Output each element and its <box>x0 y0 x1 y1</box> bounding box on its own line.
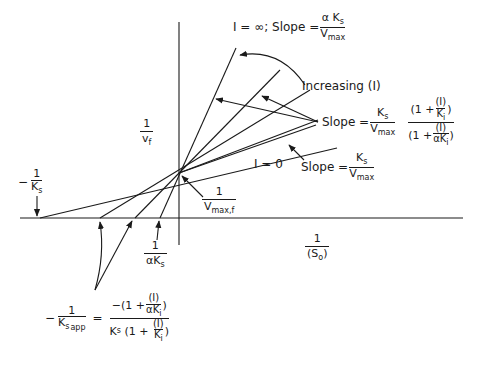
zero-slope-annotation: Slope = Ks Vmax <box>301 152 375 182</box>
ks-app-equation: − 1 Ksapp = −(1 + (I)αKi ) Ks (1 + (I)Ki… <box>45 293 170 344</box>
alpha-ks-label: 1 αKs <box>144 240 167 269</box>
intersection-label: 1 Vmax,f <box>202 186 236 215</box>
x-axis-label: 1 (So) <box>305 233 329 262</box>
zero-label: I = 0 <box>254 158 283 170</box>
alpha-ks-pointer <box>157 221 159 240</box>
neg-ks-label: − 1 Ks <box>18 168 43 195</box>
slope-pointer-1 <box>216 99 318 122</box>
y-axis-label: 1 vf <box>140 118 153 147</box>
increasing-label: Increasing (I) <box>302 80 381 92</box>
slope-pointer-2 <box>262 96 318 122</box>
intersection-pointer <box>182 176 203 197</box>
general-slope-annotation: Slope = Ks Vmax (1 + (I)Ki ) (1 + (I)αKi… <box>322 97 455 148</box>
increasing-arrow <box>240 54 305 85</box>
ks-app-pointer-2 <box>95 221 132 290</box>
infinite-annotation: I = ∞; Slope = α Ks Vmax <box>233 12 346 42</box>
line-mid-b <box>179 125 316 173</box>
